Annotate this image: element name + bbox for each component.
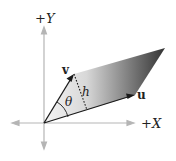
x-axis bbox=[12, 121, 134, 126]
vector-u-label: u bbox=[137, 89, 146, 101]
vector-v-label: v bbox=[62, 64, 69, 76]
height-label: h bbox=[82, 86, 90, 98]
y-axis bbox=[42, 27, 47, 149]
angle-label: θ bbox=[65, 96, 72, 108]
y-axis-label: +Y bbox=[35, 12, 54, 25]
parallelogram-fill bbox=[44, 48, 165, 123]
x-axis-label: +X bbox=[141, 117, 161, 130]
parallelogram-diagram bbox=[0, 0, 176, 161]
